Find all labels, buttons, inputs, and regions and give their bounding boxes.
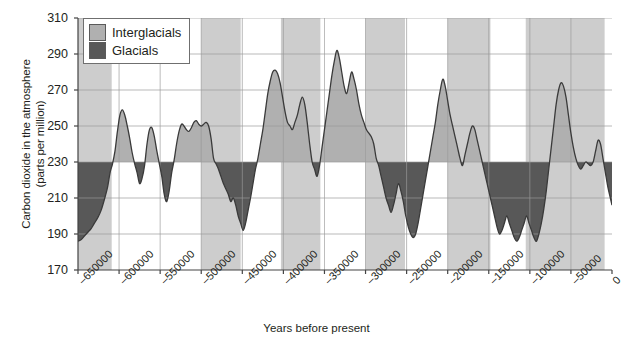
legend-label-interglacials: Interglacials: [112, 26, 181, 39]
legend-item-interglacials: Interglacials: [89, 23, 181, 41]
legend-item-glacials: Glacials: [89, 41, 181, 59]
chart-root: Carbon dioxide in the atmosphere (parts …: [0, 0, 633, 345]
legend-swatch-interglacials: [89, 24, 106, 41]
legend-label-glacials: Glacials: [112, 44, 158, 57]
chart-legend: Interglacials Glacials: [83, 18, 190, 64]
legend-swatch-glacials: [89, 42, 106, 59]
